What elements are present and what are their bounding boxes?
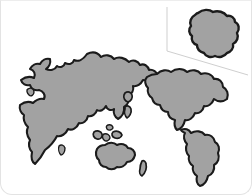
island-indonesia-c[interactable] bbox=[112, 131, 122, 138]
landmass-eurasia-africa[interactable] bbox=[20, 53, 158, 164]
island-sri-lanka[interactable] bbox=[59, 145, 65, 155]
island-british-isles[interactable] bbox=[27, 88, 34, 96]
landmass-new-zealand[interactable] bbox=[140, 161, 147, 176]
landmass-north-america[interactable] bbox=[145, 69, 228, 130]
island-indonesia-b[interactable] bbox=[103, 134, 111, 141]
inset-country-shape[interactable] bbox=[189, 10, 239, 57]
landmass-australia[interactable] bbox=[96, 143, 135, 170]
island-japan[interactable] bbox=[125, 106, 132, 118]
island-indonesia-a[interactable] bbox=[93, 131, 102, 139]
island-philippines[interactable] bbox=[106, 125, 113, 130]
world-map-card bbox=[0, 0, 252, 195]
map-canvas bbox=[1, 1, 252, 195]
landmass-greenland-arctic[interactable] bbox=[124, 92, 133, 102]
landmass-south-america[interactable] bbox=[181, 129, 219, 186]
